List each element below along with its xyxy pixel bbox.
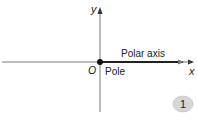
pole-point: [97, 59, 103, 65]
y-axis-arrowhead: [98, 7, 103, 14]
pole-label: Pole: [105, 66, 125, 77]
y-axis-label: y: [90, 3, 98, 15]
origin-label: O: [88, 64, 96, 76]
polar-coordinate-diagram: y x O Pole Polar axis 1: [0, 0, 197, 122]
x-axis-label: x: [188, 65, 195, 77]
figure-number-badge: 1: [173, 96, 193, 112]
polar-axis-label: Polar axis: [121, 48, 165, 59]
badge-number: 1: [180, 98, 186, 110]
